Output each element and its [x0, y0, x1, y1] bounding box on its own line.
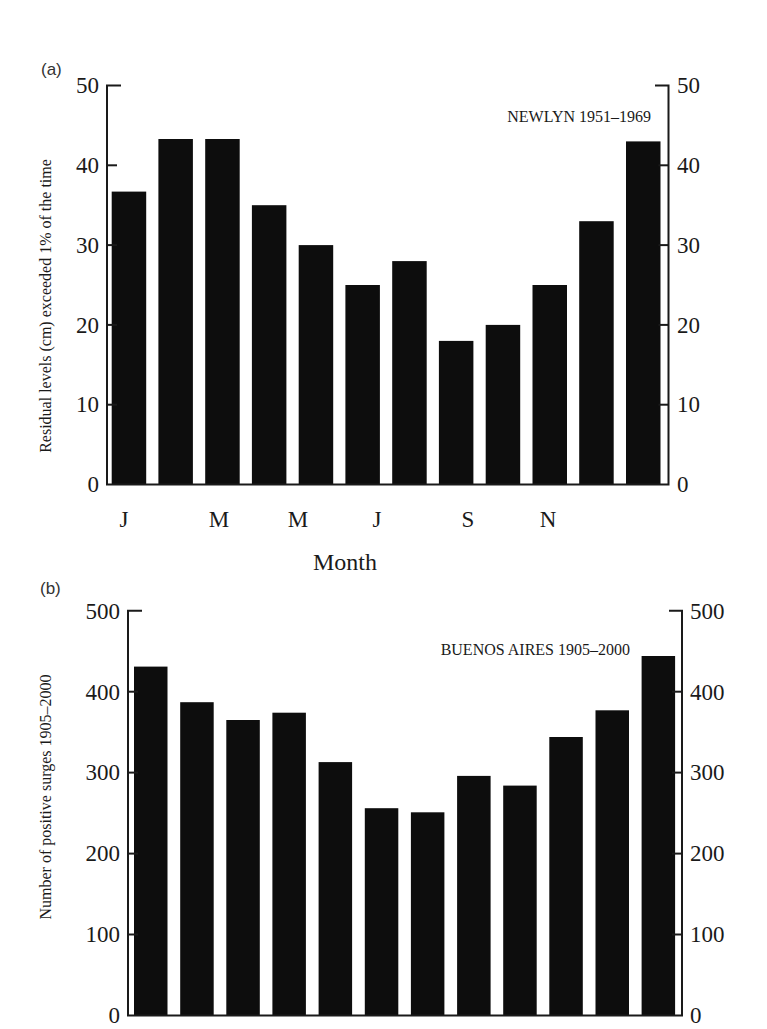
- panel-b: (b) Number of positive surges 1905–2000 …: [37, 579, 725, 1028]
- panel-a: (a) Residual levels (cm) exceeded 1% of …: [37, 60, 700, 575]
- bar-oct: [533, 285, 568, 485]
- tick-label: 100: [86, 922, 121, 947]
- panel-b-y-axis-label: Number of positive surges 1905–2000: [37, 674, 55, 919]
- panel-b-bars: [134, 656, 675, 1016]
- bar-dec: [642, 656, 676, 1016]
- bar-apr: [272, 713, 306, 1016]
- month-label: J: [373, 507, 382, 532]
- tick-label: 300: [690, 760, 725, 785]
- panel-b-title: BUENOS AIRES 1905–2000: [441, 641, 630, 658]
- tick-label: 30: [677, 233, 700, 258]
- tick-label: 0: [109, 1003, 121, 1028]
- tick-label: 0: [677, 472, 689, 497]
- panel-a-right-tick-labels: 0 10 20 30 40 50: [677, 73, 700, 497]
- panel-a-x-tick-labels: J M M J S N: [120, 507, 557, 532]
- month-label: J: [120, 507, 129, 532]
- bar-feb: [180, 702, 214, 1015]
- bar-feb: [158, 139, 193, 485]
- tick-label: 20: [76, 313, 99, 338]
- month-label: M: [209, 507, 229, 532]
- tick-label: 300: [86, 760, 121, 785]
- bar-sep: [486, 325, 521, 485]
- bar-nov: [596, 710, 630, 1015]
- tick-label: 30: [76, 233, 99, 258]
- bar-jul: [411, 812, 445, 1015]
- tick-label: 10: [76, 392, 99, 417]
- tick-label: 0: [690, 1003, 702, 1028]
- tick-label: 500: [86, 599, 121, 624]
- bar-jan: [112, 192, 147, 485]
- bar-oct: [549, 737, 583, 1016]
- bar-jan: [134, 667, 168, 1016]
- panel-a-left-tick-labels: 0 10 20 30 40 50: [76, 73, 99, 497]
- tick-label: 50: [76, 73, 99, 98]
- tick-label: 400: [86, 680, 121, 705]
- panel-b-left-tick-labels: 0 100 200 300 400 500: [86, 599, 121, 1028]
- bar-may: [319, 762, 353, 1015]
- tick-label: 200: [690, 841, 725, 866]
- panel-b-right-tick-labels: 0 100 200 300 400 500: [690, 599, 725, 1028]
- bar-nov: [579, 221, 614, 484]
- bar-jun: [345, 285, 380, 485]
- bar-apr: [252, 205, 287, 484]
- bar-mar: [205, 139, 240, 485]
- tick-label: 40: [677, 153, 700, 178]
- tick-label: 200: [86, 841, 121, 866]
- panel-a-bars: [112, 139, 661, 485]
- panel-b-label: (b): [40, 579, 61, 598]
- panel-a-title: NEWLYN 1951–1969: [507, 108, 651, 125]
- panel-a-label: (a): [41, 60, 62, 79]
- bar-jun: [365, 808, 399, 1015]
- bar-may: [299, 245, 334, 484]
- figure: (a) Residual levels (cm) exceeded 1% of …: [0, 0, 767, 1029]
- tick-label: 40: [76, 153, 99, 178]
- tick-label: 20: [677, 313, 700, 338]
- tick-label: 400: [690, 680, 725, 705]
- month-label: S: [462, 507, 475, 532]
- tick-label: 0: [88, 472, 100, 497]
- month-label: N: [540, 507, 557, 532]
- bar-jul: [392, 261, 427, 484]
- bar-mar: [226, 720, 259, 1016]
- bar-aug: [457, 776, 491, 1016]
- tick-label: 10: [677, 392, 700, 417]
- bar-sep: [503, 786, 537, 1016]
- tick-label: 100: [690, 922, 725, 947]
- bar-dec: [626, 141, 661, 484]
- panel-a-x-axis-label: Month: [313, 549, 377, 575]
- bar-aug: [439, 341, 474, 485]
- panel-a-y-axis-label: Residual levels (cm) exceeded 1% of the …: [37, 159, 55, 453]
- tick-label: 50: [677, 73, 700, 98]
- tick-label: 500: [690, 599, 725, 624]
- month-label: M: [288, 507, 308, 532]
